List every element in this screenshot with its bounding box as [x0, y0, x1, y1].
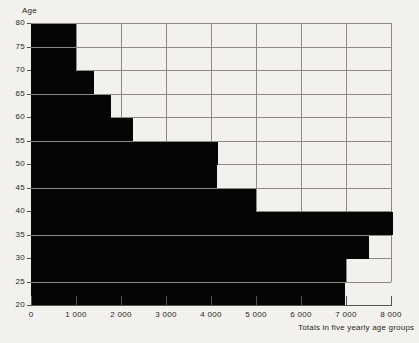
vertical-gridline — [391, 23, 392, 282]
x-axis-label: 1 000 — [65, 310, 87, 319]
y-axis-tick — [27, 70, 31, 71]
y-axis-label: 70 — [5, 65, 25, 74]
y-axis-label: 35 — [5, 230, 25, 239]
y-axis-label: 45 — [5, 183, 25, 192]
x-axis-tick — [256, 296, 257, 306]
bar-age-25 — [31, 283, 345, 306]
x-axis-label: 7 000 — [335, 310, 357, 319]
y-axis-tick — [27, 47, 31, 48]
y-axis-tick — [27, 282, 31, 283]
bar-age-80 — [31, 24, 76, 47]
y-axis-label: 20 — [5, 300, 25, 309]
bar-age-75 — [31, 48, 76, 71]
x-axis-tick — [211, 296, 212, 306]
x-axis-label: 0 — [29, 310, 34, 319]
x-axis-label: 6 000 — [290, 310, 312, 319]
horizontal-gridline — [31, 47, 391, 48]
y-axis-tick — [27, 235, 31, 236]
y-axis-label: 80 — [5, 18, 25, 27]
x-axis-label: 4 000 — [200, 310, 222, 319]
y-axis-tick — [27, 117, 31, 118]
bar-age-65 — [31, 95, 111, 118]
bar-age-35 — [31, 236, 369, 259]
x-axis-label: 2 000 — [110, 310, 132, 319]
x-axis-tick — [391, 296, 392, 306]
y-axis-label: 40 — [5, 206, 25, 215]
x-axis-tick — [31, 296, 32, 306]
y-axis-tick — [27, 188, 31, 189]
x-axis-tick — [76, 296, 77, 306]
y-axis-label: 65 — [5, 89, 25, 98]
x-axis-label: 8 000 — [380, 310, 402, 319]
bar-age-55 — [31, 142, 218, 165]
y-axis-label: 55 — [5, 136, 25, 145]
y-axis-tick — [27, 141, 31, 142]
x-axis-label: 5 000 — [245, 310, 267, 319]
y-axis-label: 75 — [5, 42, 25, 51]
bar-age-30 — [31, 259, 346, 282]
x-axis-caption: Totals in five yearly age groups — [298, 323, 414, 332]
bar-age-45 — [31, 189, 256, 212]
x-axis-tick — [346, 296, 347, 306]
population-age-bar-chart: Age 01 0002 0003 0004 0005 0006 0007 000… — [0, 0, 419, 343]
bar-age-60 — [31, 118, 133, 141]
y-axis-tick — [27, 258, 31, 259]
y-axis-tick — [27, 23, 31, 24]
y-axis-tick — [27, 305, 31, 306]
y-axis-label: 50 — [5, 159, 25, 168]
bar-age-40 — [31, 212, 393, 235]
horizontal-gridline — [31, 23, 391, 24]
y-axis-label: 25 — [5, 277, 25, 286]
x-axis-tick — [121, 296, 122, 306]
x-axis-tick — [301, 296, 302, 306]
bar-age-50 — [31, 165, 217, 188]
bar-age-70 — [31, 71, 94, 94]
y-axis-tick — [27, 94, 31, 95]
x-axis-label: 3 000 — [155, 310, 177, 319]
x-axis-tick — [166, 296, 167, 306]
y-axis-title: Age — [22, 6, 37, 15]
y-axis-tick — [27, 164, 31, 165]
y-axis-tick — [27, 211, 31, 212]
y-axis-label: 60 — [5, 112, 25, 121]
y-axis-label: 30 — [5, 253, 25, 262]
